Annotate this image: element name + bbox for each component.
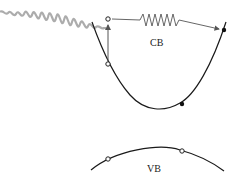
vb-label: VB <box>147 163 161 174</box>
phonon-spring-arrow <box>112 14 219 29</box>
open-circle-upper <box>106 17 110 21</box>
band-diagram: CB VB <box>0 0 233 182</box>
filled-dot-upper <box>222 28 226 32</box>
cb-label: CB <box>150 37 164 48</box>
conduction-band-curve <box>92 22 226 109</box>
open-circle-vb-right <box>180 149 184 153</box>
filled-dot-curve <box>180 102 184 106</box>
photon-wave <box>0 11 106 28</box>
open-circle-vb-left <box>106 157 110 161</box>
open-circle-curve <box>106 62 110 66</box>
